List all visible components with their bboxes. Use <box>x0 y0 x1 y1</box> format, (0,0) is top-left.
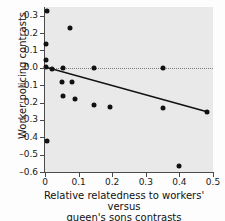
data-point <box>91 103 96 108</box>
data-point <box>92 65 97 70</box>
y-tick <box>40 137 45 138</box>
data-point <box>45 138 50 143</box>
data-point <box>61 93 66 98</box>
y-tick <box>40 50 45 51</box>
y-tick <box>40 120 45 121</box>
x-tick-label: 0 <box>32 178 58 187</box>
x-axis-title-line2: queen's sons contrasts <box>28 212 220 221</box>
plot-area <box>45 7 213 172</box>
y-tick <box>40 103 45 104</box>
data-point <box>44 9 49 14</box>
y-tick <box>40 85 45 86</box>
data-point <box>69 80 74 85</box>
data-point <box>107 104 112 109</box>
data-point <box>72 97 77 102</box>
data-point <box>160 65 165 70</box>
x-axis-line <box>44 172 214 173</box>
data-point <box>160 106 165 111</box>
y-tick <box>40 155 45 156</box>
data-point <box>68 25 73 30</box>
y-tick <box>40 33 45 34</box>
x-tick-label: 0.4 <box>166 178 192 187</box>
data-point <box>60 65 65 70</box>
x-tick-label: 0.2 <box>99 178 125 187</box>
x-tick-label: 0.3 <box>133 178 159 187</box>
data-point <box>59 80 64 85</box>
y-axis-line <box>44 7 45 173</box>
data-point <box>44 42 49 47</box>
y-tick <box>40 16 45 17</box>
zero-reference-line <box>45 68 213 69</box>
scatter-plot-figure: 0.30.20.10.0–0.1–0.2–0.3–0.4–0.5–0.600.1… <box>0 0 225 221</box>
data-point <box>44 57 49 62</box>
data-point <box>177 163 182 168</box>
x-axis-title-line1: Relative relatedness to workers' versus <box>28 190 220 212</box>
data-point <box>50 67 55 72</box>
x-tick-label: 0.1 <box>66 178 92 187</box>
data-point <box>205 110 210 115</box>
y-axis-title: Worker policing contrasts <box>17 0 28 156</box>
y-tick <box>40 68 45 69</box>
x-axis-title: Relative relatedness to workers' versus … <box>28 190 220 221</box>
x-tick-label: 0.5 <box>200 178 225 187</box>
y-axis-title-wrapper: Worker policing contrasts <box>2 10 16 170</box>
